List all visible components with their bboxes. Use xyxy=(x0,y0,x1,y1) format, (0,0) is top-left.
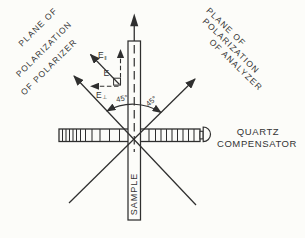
analyzer-plane-title: PLANE OF POLARIZATION OF ANALYZER xyxy=(201,6,265,93)
diagram-canvas: E ‖ E E ⊥ 45° 45° PLANE OF POLARIZATION … xyxy=(0,0,305,238)
beam-arrowhead-icon xyxy=(130,14,138,27)
angle-label-left: 45° xyxy=(115,93,129,104)
beam-arrow xyxy=(130,14,138,42)
polarizer-plane-title: PLANE OF POLARIZATION OF POLARIZER xyxy=(14,5,79,97)
e-perpendicular-label: E xyxy=(96,90,102,100)
compensator-caption-line1: QUARTZ xyxy=(237,126,279,137)
e-parallel-label: E xyxy=(98,50,104,60)
e-parallel-subscript: ‖ xyxy=(104,55,106,61)
compensator-knob-icon xyxy=(203,127,210,142)
e-perpendicular-subscript: ⊥ xyxy=(102,94,107,100)
compensator-caption-line2: COMPENSATOR xyxy=(217,138,297,149)
sample-label: SAMPLE xyxy=(129,173,139,216)
e-resultant-label: E xyxy=(104,68,110,78)
polarization-diagram: E ‖ E E ⊥ 45° 45° PLANE OF POLARIZATION … xyxy=(0,0,305,238)
